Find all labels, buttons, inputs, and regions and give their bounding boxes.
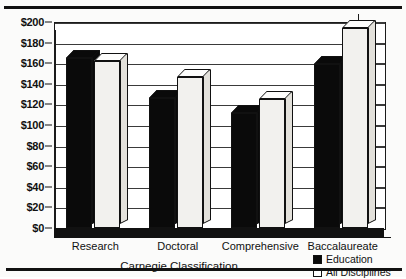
page-rule-bottom	[6, 268, 402, 271]
y-axis-tick-mark	[45, 22, 52, 23]
y-axis-tick-label: $120	[21, 98, 44, 110]
y-axis-tick-label: $160	[21, 57, 44, 69]
page-rule-top	[4, 6, 402, 9]
y-axis-tick-label: $60	[27, 160, 44, 172]
y-axis-tick-label: $200	[21, 16, 44, 28]
y-axis-tick-label: $140	[21, 78, 44, 90]
bar-side	[203, 69, 211, 224]
bar-face	[231, 113, 257, 228]
bar-face	[259, 99, 285, 228]
y-axis-tick-label: $40	[27, 181, 44, 193]
chart-legend: Education All Disciplines	[313, 253, 406, 279]
legend-swatch-education	[313, 255, 322, 264]
chart-floor	[54, 228, 384, 237]
x-axis-tick-label: Doctoral	[157, 240, 198, 252]
bar-side	[285, 91, 293, 224]
bar-face	[177, 77, 203, 228]
legend-label-education: Education	[326, 253, 373, 265]
x-axis-tick-label: Comprehensive	[222, 240, 299, 252]
bar-all-disciplines	[259, 99, 285, 228]
bar-education	[231, 113, 257, 228]
x-axis-tick-label: Research	[72, 240, 119, 252]
bar-group	[54, 22, 137, 228]
bar-face	[149, 98, 175, 228]
x-axis-tick-label: Baccalaureate	[308, 240, 378, 252]
bar-education	[149, 98, 175, 228]
bar-education	[66, 58, 92, 228]
bar-all-disciplines	[94, 61, 120, 228]
bar-group	[302, 22, 385, 228]
bar-all-disciplines	[177, 77, 203, 228]
chart-floor-edge	[54, 237, 391, 238]
y-axis-tick-label: $80	[27, 140, 44, 152]
bar-chart-figure: $200$180$160$140$120$100$80$60$40$20$0 R…	[0, 10, 406, 266]
bar-face	[94, 61, 120, 228]
y-axis-tick-label: $100	[21, 119, 44, 131]
bar-group	[219, 22, 302, 228]
bar-side	[120, 53, 128, 224]
bar-series-container	[54, 22, 384, 228]
y-axis-tick-label: $0	[32, 222, 44, 234]
bar-face	[314, 64, 340, 228]
y-axis-tick-label: $180	[21, 37, 44, 49]
bar-all-disciplines	[342, 28, 368, 228]
bar-face	[342, 28, 368, 228]
bar-face	[66, 58, 92, 228]
bar-education	[314, 64, 340, 228]
y-axis-tick-label: $20	[27, 201, 44, 213]
legend-item-education: Education	[313, 253, 406, 265]
bar-side	[368, 20, 376, 224]
bar-group	[137, 22, 220, 228]
